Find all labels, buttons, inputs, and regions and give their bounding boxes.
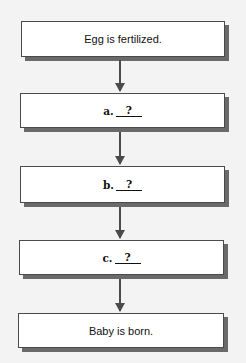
- step-baby-born: Baby is born.: [18, 313, 224, 348]
- step-c: c.?: [19, 240, 224, 275]
- arrow-down-icon: [119, 279, 121, 311]
- step-a: a.?: [20, 93, 225, 128]
- arrow-down-icon: [119, 207, 121, 238]
- step-egg-fertilized: Egg is fertilized.: [21, 21, 225, 57]
- step-letter: a.: [103, 105, 113, 117]
- answer-blank-b: ?: [116, 178, 142, 191]
- step-b: b.?: [20, 166, 225, 203]
- step-text: Baby is born.: [89, 325, 153, 337]
- step-letter: c.: [102, 252, 112, 264]
- step-letter: b.: [103, 179, 114, 191]
- arrow-down-icon: [119, 60, 121, 91]
- step-text: Egg is fertilized.: [84, 33, 162, 45]
- answer-blank-c: ?: [115, 251, 141, 264]
- arrow-down-icon: [119, 132, 121, 164]
- answer-blank-a: ?: [116, 104, 142, 117]
